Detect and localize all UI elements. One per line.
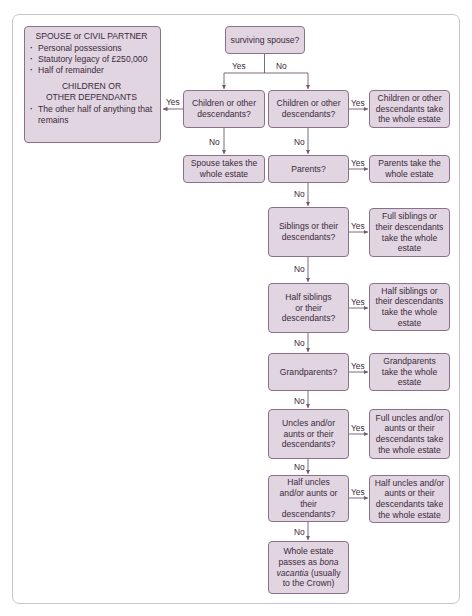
outcome-text: Parents take the whole estate: [378, 158, 441, 179]
question-text: surviving spouse?: [231, 35, 300, 46]
label-no: No: [294, 462, 305, 472]
children-list: The other half of anything that remains: [29, 104, 154, 126]
outcome-text: Full uncles and/or aunts or their descen…: [373, 413, 446, 455]
children-heading-1: CHILDREN OR: [29, 81, 154, 92]
main-question-1: Children or other descendants?: [268, 90, 349, 128]
bona-vacantia-outcome: Whole estate passes as bona vacantia (us…: [268, 541, 349, 594]
outcome-6: Full uncles and/or aunts or their descen…: [369, 409, 450, 459]
surviving-spouse-question: surviving spouse?: [225, 26, 305, 54]
outcome-7: Half uncles and/or aunts or their descen…: [369, 475, 450, 523]
spouse-item: Personal possessions: [29, 43, 154, 54]
final-line-1: Whole estate: [283, 546, 333, 557]
label-no: No: [294, 527, 305, 537]
question-text: Half uncles and/or aunts or their descen…: [275, 477, 342, 519]
question-text: Grandparents?: [280, 367, 337, 378]
spouse-item: Half of remainder: [29, 65, 154, 76]
final-line-2-italic: bona: [319, 557, 338, 567]
question-text: Children or other descendants?: [272, 98, 345, 119]
final-line-2: passes as bona: [278, 557, 338, 568]
outcome-5: Grandparents take the whole estate: [369, 353, 450, 391]
outcome-2: Parents take the whole estate: [369, 155, 450, 183]
label-yes: Yes: [351, 487, 365, 497]
outcome-text: Grandparents take the whole estate: [380, 356, 439, 388]
outcome-4: Half siblings or their descendants take …: [369, 283, 450, 331]
label-no-top: No: [276, 61, 287, 71]
main-question-3: Siblings or their descendants?: [268, 207, 349, 257]
final-line-3: vacantia (usually: [276, 568, 340, 579]
main-question-5: Grandparents?: [268, 353, 349, 391]
question-text: Children or other descendants?: [187, 98, 261, 119]
distribution-notes-box: SPOUSE or CIVIL PARTNER Personal possess…: [24, 26, 161, 143]
label-yes: Yes: [351, 423, 365, 433]
question-text: Uncles and/or aunts or their descendants…: [277, 418, 340, 450]
label-no: No: [294, 189, 305, 199]
outcome-text: Half uncles and/or aunts or their descen…: [373, 478, 446, 520]
label-yes: Yes: [351, 98, 365, 108]
label-no: No: [294, 264, 305, 274]
label-no-left: No: [209, 137, 220, 147]
children-heading-2: OTHER DEPENDANTS: [29, 92, 154, 103]
main-question-4: Half siblings or their descendants?: [268, 283, 349, 333]
outcome-text: Spouse takes the whole estate: [187, 158, 261, 179]
main-question-7: Half uncles and/or aunts or their descen…: [268, 475, 349, 522]
label-no: No: [294, 396, 305, 406]
main-question-6: Uncles and/or aunts or their descendants…: [268, 409, 349, 459]
outcome-3: Full siblings or their descendants take …: [369, 208, 450, 257]
label-yes-left: Yes: [166, 97, 180, 107]
spouse-list: Personal possessions Statutory legacy of…: [29, 43, 154, 76]
label-yes: Yes: [351, 297, 365, 307]
label-yes: Yes: [351, 361, 365, 371]
final-line-3-suffix: (usually: [309, 568, 341, 578]
question-text: Parents?: [291, 164, 325, 175]
question-text: Siblings or their descendants?: [272, 221, 345, 242]
children-item: The other half of anything that remains: [29, 104, 154, 126]
outcome-text: Full siblings or their descendants take …: [373, 211, 446, 253]
outcome-text: Children or other descendants take the w…: [373, 93, 446, 125]
outcome-1: Children or other descendants take the w…: [369, 90, 450, 128]
label-no: No: [294, 137, 305, 147]
question-text: Half siblings or their descendants?: [281, 292, 336, 324]
left-children-question: Children or other descendants?: [183, 90, 265, 128]
label-yes: Yes: [351, 221, 365, 231]
label-yes: Yes: [351, 158, 365, 168]
final-line-4: to the Crown): [283, 578, 335, 589]
label-no: No: [294, 338, 305, 348]
label-yes-top: Yes: [232, 61, 246, 71]
final-line-3-italic: vacantia: [276, 568, 308, 578]
final-line-2-prefix: passes as: [278, 557, 319, 567]
spouse-heading: SPOUSE or CIVIL PARTNER: [29, 31, 154, 42]
spouse-takes-outcome: Spouse takes the whole estate: [183, 155, 265, 183]
outcome-text: Half siblings or their descendants take …: [373, 286, 446, 328]
spouse-item: Statutory legacy of £250,000: [29, 54, 154, 65]
main-question-2: Parents?: [268, 155, 349, 183]
